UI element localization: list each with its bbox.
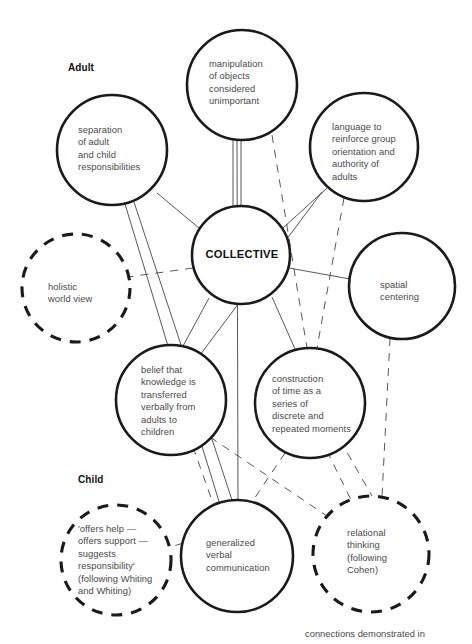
node-label-separation: separation of adult and child responsibi…: [78, 124, 162, 174]
connector-collective-holistic: [128, 268, 193, 277]
connector-collective-time: [272, 297, 295, 349]
node-label-holistic: holistic world view: [48, 281, 124, 306]
group-label-child: Child: [78, 474, 104, 485]
node-label-offers: 'offers help — offers support — suggests…: [78, 523, 174, 597]
connector-separation-belief: [125, 204, 168, 346]
figure-caption: connections demonstrated in: [305, 628, 425, 640]
connector-collective-belief: [183, 298, 209, 346]
connector-belief-generalized-b: [201, 443, 221, 508]
connector-manipulation-generalized: [237, 140, 238, 500]
node-label-relational: relational thinking (following Cohen): [347, 527, 423, 577]
connector-collective-separation: [157, 193, 199, 228]
node-label-spatial: spatial centering: [380, 279, 450, 304]
node-label-generalized: generalized verbal communication: [206, 537, 294, 574]
connector-time-relational-b: [340, 440, 372, 496]
node-label-collective: COLLECTIVE: [196, 248, 288, 260]
connector-collective-spatial: [289, 268, 350, 279]
node-label-belief: belief that knowledge is transferred ver…: [141, 364, 225, 438]
node-label-manipulation: manipulation of objects considered unimp…: [209, 58, 295, 108]
connector-time-relational: [327, 451, 352, 502]
connector-spatial-relational: [382, 338, 390, 497]
diagram-canvas: COLLECTIVEseparation of adult and child …: [0, 0, 472, 644]
group-label-adult: Adult: [68, 62, 94, 73]
connector-language-time: [317, 198, 344, 348]
node-label-time: construction of time as a series of disc…: [272, 373, 368, 435]
connector-time-generalized: [252, 453, 285, 502]
node-label-language: language to reinforce group orientation …: [332, 121, 422, 183]
